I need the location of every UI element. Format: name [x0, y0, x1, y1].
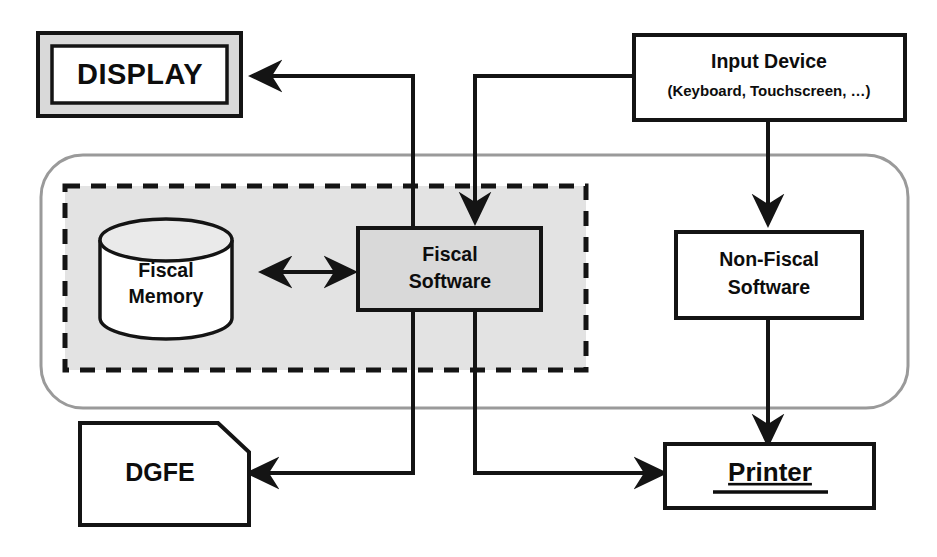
- printer-label: Printer: [728, 457, 812, 487]
- fiscal-software-label-line2: Software: [409, 270, 492, 292]
- fiscal-memory-label-line1: Fiscal: [138, 259, 193, 281]
- node-display[interactable]: DISPLAY: [38, 33, 241, 116]
- node-non-fiscal-software[interactable]: Non-Fiscal Software: [676, 232, 862, 318]
- node-fiscal-memory[interactable]: Fiscal Memory: [100, 219, 232, 339]
- node-input-device[interactable]: Input Device (Keyboard, Touchscreen, …): [634, 35, 905, 120]
- input-device-sublabel: (Keyboard, Touchscreen, …): [667, 82, 870, 99]
- non-fiscal-software-label-line2: Software: [728, 276, 811, 298]
- input-device-label: Input Device: [711, 50, 827, 72]
- fiscal-memory-label-line2: Memory: [129, 285, 204, 307]
- node-printer[interactable]: Printer: [665, 444, 874, 508]
- architecture-diagram: DISPLAY Input Device (Keyboard, Touchscr…: [0, 0, 937, 557]
- diagram-root: DISPLAY Input Device (Keyboard, Touchscr…: [0, 0, 937, 557]
- dgfe-label: DGFE: [125, 458, 194, 486]
- node-dgfe[interactable]: DGFE: [80, 423, 249, 525]
- node-fiscal-software[interactable]: Fiscal Software: [358, 228, 541, 310]
- fiscal-software-label-line1: Fiscal: [422, 243, 477, 265]
- display-label: DISPLAY: [77, 58, 203, 90]
- non-fiscal-software-label-line1: Non-Fiscal: [719, 248, 819, 270]
